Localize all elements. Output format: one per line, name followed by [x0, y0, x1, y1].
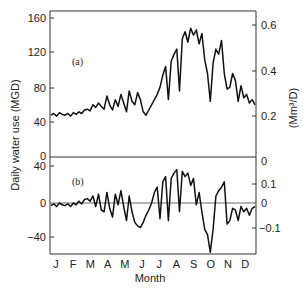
month-label: M — [120, 258, 129, 270]
month-label: M — [86, 258, 95, 270]
month-label: D — [241, 258, 249, 270]
tick-label: 160 — [28, 12, 46, 24]
tick-label: 0 — [40, 197, 46, 209]
month-label: J — [139, 258, 145, 270]
series-line-a — [51, 28, 255, 116]
y-axis-title-right: (Mm³/D) — [287, 88, 299, 128]
water-use-chart: 160 120 80 40 0 0.6 0.4 0.2 40 0 −40 0 0… — [0, 0, 306, 293]
tick-label: 0.1 — [261, 178, 276, 190]
tick-label: 0.2 — [261, 110, 276, 122]
tick-label: 0 — [261, 155, 267, 167]
month-labels: JFMAMJJASOND — [53, 258, 249, 270]
tick-label: 80 — [34, 82, 46, 94]
month-label: A — [104, 258, 112, 270]
month-label: F — [70, 258, 77, 270]
month-label: J — [156, 258, 162, 270]
panel-label-b: (b) — [72, 176, 84, 188]
tick-label: 40 — [34, 160, 46, 172]
tick-label: −0.1 — [259, 222, 281, 234]
plot-frame — [50, 11, 256, 254]
tick-label: −40 — [27, 231, 46, 243]
tick-label: 0.6 — [261, 19, 276, 31]
month-label: N — [224, 258, 232, 270]
tick-label: 0 — [261, 197, 267, 209]
panel-label-a: (a) — [72, 56, 83, 68]
x-axis-title: Month — [135, 272, 166, 284]
tick-label: 120 — [28, 46, 46, 58]
month-label: J — [53, 258, 59, 270]
month-label: O — [207, 258, 216, 270]
month-label: S — [190, 258, 197, 270]
y-axis-title-left: Daily water use (MGD) — [9, 79, 21, 190]
month-label: A — [173, 258, 181, 270]
tick-label: 40 — [34, 116, 46, 128]
tick-label: 0.4 — [261, 65, 276, 77]
